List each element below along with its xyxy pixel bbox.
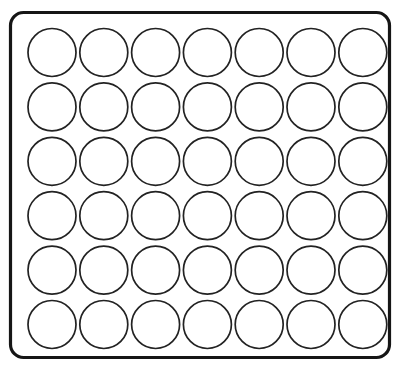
grid-circle [183, 29, 231, 77]
grid-circle [132, 301, 180, 349]
grid-circle [339, 301, 387, 349]
grid-circle [339, 29, 387, 77]
grid-circle [287, 83, 335, 131]
grid-circle [132, 246, 180, 294]
grid-circle [287, 246, 335, 294]
grid-circle [183, 301, 231, 349]
grid-circle [28, 246, 76, 294]
grid-circle [235, 29, 283, 77]
grid-circle [235, 192, 283, 240]
grid-circle [183, 83, 231, 131]
grid-circle [235, 83, 283, 131]
grid-circle [28, 83, 76, 131]
grid-circle [80, 192, 128, 240]
grid-circle [132, 29, 180, 77]
grid-circle [80, 29, 128, 77]
grid-circle [183, 192, 231, 240]
grid-circle [235, 246, 283, 294]
grid-circle [339, 246, 387, 294]
grid-circle [28, 29, 76, 77]
grid-circle [339, 137, 387, 185]
grid-circle [132, 137, 180, 185]
grid-circle [28, 301, 76, 349]
grid-circle [339, 83, 387, 131]
grid-circle [183, 137, 231, 185]
grid-circle [132, 192, 180, 240]
grid-circle [235, 301, 283, 349]
grid-circle [287, 29, 335, 77]
grid-circle [28, 192, 76, 240]
grid-circle [287, 137, 335, 185]
diagram-canvas [0, 0, 407, 371]
grid-circle [132, 83, 180, 131]
grid-circle [28, 137, 76, 185]
grid-circle [183, 246, 231, 294]
grid-circle [235, 137, 283, 185]
grid-circle [287, 301, 335, 349]
grid-circle [80, 83, 128, 131]
grid-circle [287, 192, 335, 240]
grid-circle [80, 301, 128, 349]
grid-circle [80, 246, 128, 294]
circle-grid-tray-diagram [0, 0, 407, 371]
grid-circle [80, 137, 128, 185]
grid-circle [339, 192, 387, 240]
